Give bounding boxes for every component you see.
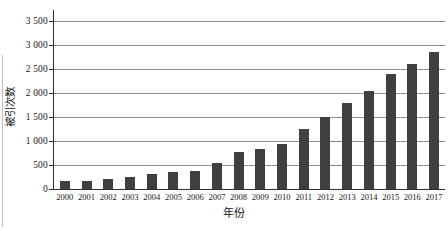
bar-series — [54, 21, 445, 189]
bar-cell-2007 — [206, 21, 228, 189]
x-tick-label-2013: 2013 — [336, 192, 358, 202]
bar-cell-2011 — [293, 21, 315, 189]
y-tick-3000 — [49, 45, 53, 46]
y-tick-label-3500: 3 500 — [0, 16, 48, 27]
x-tick-label-2007: 2007 — [206, 192, 228, 202]
x-tick-label-2011: 2011 — [293, 192, 315, 202]
bar-2017 — [429, 52, 439, 189]
x-tick-label-2016: 2016 — [402, 192, 424, 202]
y-tick-label-0: 0 — [0, 184, 48, 195]
bar-cell-2009 — [249, 21, 271, 189]
bar-2006 — [190, 171, 200, 189]
bar-cell-2015 — [380, 21, 402, 189]
bar-cell-2000 — [54, 21, 76, 189]
plot-area — [54, 21, 445, 189]
y-tick-label-1500: 1 500 — [0, 112, 48, 123]
x-tick-label-2014: 2014 — [358, 192, 380, 202]
bar-cell-2003 — [119, 21, 141, 189]
y-tick-label-1000: 1 000 — [0, 136, 48, 147]
bar-2007 — [212, 163, 222, 189]
bar-cell-2010 — [271, 21, 293, 189]
bar-cell-2002 — [97, 21, 119, 189]
bar-cell-2017 — [423, 21, 445, 189]
x-tick-label-2005: 2005 — [163, 192, 185, 202]
y-tick-label-2000: 2 000 — [0, 88, 48, 99]
bar-cell-2008 — [228, 21, 250, 189]
bar-2010 — [277, 144, 287, 189]
bar-2004 — [147, 174, 157, 189]
y-tick-1000 — [49, 141, 53, 142]
x-axis-tick-labels: 2000200120022003200420052006200720082009… — [54, 192, 445, 202]
x-tick-label-2009: 2009 — [249, 192, 271, 202]
bar-2001 — [82, 181, 92, 189]
bar-2013 — [342, 103, 352, 189]
y-tick-2000 — [49, 93, 53, 94]
bar-2012 — [320, 117, 330, 189]
x-tick-label-2004: 2004 — [141, 192, 163, 202]
x-tick-label-2001: 2001 — [76, 192, 98, 202]
bar-cell-2013 — [336, 21, 358, 189]
bar-2015 — [386, 74, 396, 189]
y-tick-1500 — [49, 117, 53, 118]
bar-2016 — [407, 64, 417, 189]
y-tick-500 — [49, 165, 53, 166]
bar-2000 — [60, 181, 70, 189]
bar-cell-2004 — [141, 21, 163, 189]
y-tick-label-500: 500 — [0, 160, 48, 171]
x-tick-label-2008: 2008 — [228, 192, 250, 202]
bar-2003 — [125, 177, 135, 189]
bar-2002 — [103, 179, 113, 189]
citation-bar-chart: 被引次数 05001 0001 5002 0002 5003 0003 500 … — [0, 0, 448, 231]
y-tick-label-2500: 2 500 — [0, 64, 48, 75]
x-tick-label-2010: 2010 — [271, 192, 293, 202]
x-tick-label-2017: 2017 — [423, 192, 445, 202]
x-axis-line — [53, 189, 445, 190]
bar-2005 — [168, 172, 178, 189]
x-tick-label-2012: 2012 — [315, 192, 337, 202]
bar-cell-2006 — [184, 21, 206, 189]
x-tick-label-2000: 2000 — [54, 192, 76, 202]
x-axis-title: 年份 — [54, 207, 414, 220]
bar-cell-2005 — [163, 21, 185, 189]
y-tick-2500 — [49, 69, 53, 70]
bar-2008 — [234, 152, 244, 189]
y-tick-label-3000: 3 000 — [0, 40, 48, 51]
bar-cell-2001 — [76, 21, 98, 189]
bar-2009 — [255, 149, 265, 189]
x-tick-label-2006: 2006 — [184, 192, 206, 202]
bar-2014 — [364, 91, 374, 189]
y-tick-0 — [49, 189, 53, 190]
bar-cell-2012 — [315, 21, 337, 189]
y-tick-3500 — [49, 21, 53, 22]
x-tick-label-2003: 2003 — [119, 192, 141, 202]
bar-cell-2014 — [358, 21, 380, 189]
bar-2011 — [299, 129, 309, 189]
x-tick-label-2002: 2002 — [97, 192, 119, 202]
x-tick-label-2015: 2015 — [380, 192, 402, 202]
bar-cell-2016 — [402, 21, 424, 189]
